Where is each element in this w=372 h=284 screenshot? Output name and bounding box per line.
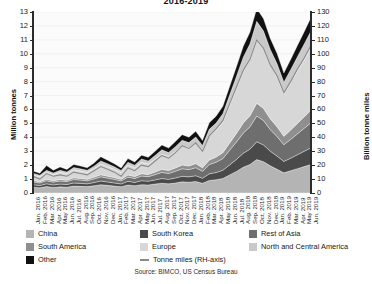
- legend-item-label: China: [38, 229, 57, 238]
- y-tick-label-left: 2: [6, 161, 28, 169]
- y-tick-label-left: 3: [6, 147, 28, 155]
- y-tick-mark-left: [30, 12, 33, 13]
- y-tick-label-right: 130: [317, 8, 343, 16]
- y-tick-mark-left: [30, 193, 33, 194]
- y-tick-mark-left: [30, 26, 33, 27]
- chart-root: 2016-2019 012345678910111213 01020304050…: [0, 0, 372, 284]
- y-tick-label-right: 90: [317, 64, 343, 72]
- legend-item[interactable]: Other: [26, 254, 56, 265]
- x-tick-label: Mar. 2016: [49, 196, 55, 224]
- y-tick-mark-left: [30, 165, 33, 166]
- x-tick-label: Mar. 2019: [293, 196, 299, 224]
- legend-item[interactable]: South Korea: [140, 228, 193, 239]
- legend-color-swatch: [249, 243, 257, 251]
- y-tick-label-left: 12: [6, 22, 28, 30]
- legend-item-label: South America: [38, 242, 86, 251]
- y-tick-label-right: 50: [317, 119, 343, 127]
- y-tick-mark-right: [312, 82, 315, 83]
- y-tick-mark-left: [30, 151, 33, 152]
- legend-line-swatch: [140, 259, 149, 261]
- x-tick-label: Dec. 2016: [110, 196, 116, 224]
- legend-item-label: North and Central America: [261, 242, 348, 251]
- legend-color-swatch: [26, 243, 34, 251]
- y-tick-mark-left: [30, 40, 33, 41]
- y-tick-mark-left: [30, 82, 33, 83]
- y-tick-label-right: 120: [317, 22, 343, 30]
- y-tick-mark-right: [312, 12, 315, 13]
- y-tick-mark-right: [312, 96, 315, 97]
- legend-color-swatch: [140, 243, 148, 251]
- y-tick-label-right: 60: [317, 105, 343, 113]
- y-axis-right: [310, 11, 312, 194]
- x-tick-label: Sep. 2017: [171, 196, 177, 224]
- legend-item-label: Europe: [152, 242, 176, 251]
- y-axis-left: [32, 11, 34, 194]
- y-tick-mark-left: [30, 109, 33, 110]
- y-tick-mark-right: [312, 165, 315, 166]
- legend-item-label: Other: [38, 255, 56, 264]
- y-tick-mark-right: [312, 54, 315, 55]
- x-tick-label: Nov. 2018: [266, 196, 272, 224]
- y-tick-mark-right: [312, 109, 315, 110]
- stacked-area-plot: [33, 12, 311, 193]
- y-tick-label-left: 8: [6, 78, 28, 86]
- legend-color-swatch: [249, 230, 257, 238]
- y-tick-label-right: 30: [317, 147, 343, 155]
- legend-item[interactable]: China: [26, 228, 57, 239]
- legend-color-swatch: [26, 230, 34, 238]
- y-tick-mark-right: [312, 193, 315, 194]
- y-tick-mark-left: [30, 179, 33, 180]
- legend-item-label: Tonne miles (RH-axis): [153, 255, 226, 264]
- y-tick-mark-right: [312, 68, 315, 69]
- y-tick-label-left: 11: [6, 36, 28, 44]
- y-tick-mark-right: [312, 179, 315, 180]
- y-tick-label-right: 0: [317, 189, 343, 197]
- x-tick-label: Jul. 2016: [76, 199, 82, 224]
- legend-item[interactable]: Europe: [140, 241, 176, 252]
- y-tick-label-right: 10: [317, 175, 343, 183]
- y-tick-mark-right: [312, 40, 315, 41]
- legend-item[interactable]: North and Central America: [249, 241, 348, 252]
- y-tick-label-right: 110: [317, 36, 343, 44]
- legend-item[interactable]: South America: [26, 241, 86, 252]
- y-axis-right-label: Billion tonne miles: [362, 92, 371, 160]
- x-tick-label: Jun. 2018: [232, 197, 238, 224]
- x-tick-label: Jun. 2019: [313, 197, 319, 224]
- y-tick-mark-right: [312, 151, 315, 152]
- plot-area: [33, 12, 311, 193]
- y-tick-label-right: 40: [317, 133, 343, 141]
- legend-color-swatch: [26, 256, 34, 264]
- legend-item-label: Rest of Asia: [261, 229, 300, 238]
- y-tick-mark-left: [30, 54, 33, 55]
- y-tick-mark-left: [30, 96, 33, 97]
- y-tick-mark-left: [30, 68, 33, 69]
- y-tick-label-left: 10: [6, 50, 28, 58]
- y-tick-mark-right: [312, 137, 315, 138]
- chart-legend: ChinaSouth KoreaRest of AsiaSouth Americ…: [0, 228, 372, 268]
- x-tick-label: Apr. 2017: [137, 198, 143, 225]
- y-tick-label-right: 70: [317, 92, 343, 100]
- y-axis-left-label: Million tonnes: [9, 89, 18, 140]
- y-tick-mark-left: [30, 137, 33, 138]
- y-tick-label-left: 1: [6, 175, 28, 183]
- y-tick-label-right: 80: [317, 78, 343, 86]
- chart-title: 2016-2019: [0, 0, 372, 5]
- legend-item-label: South Korea: [152, 229, 193, 238]
- y-tick-mark-left: [30, 123, 33, 124]
- y-tick-mark-right: [312, 26, 315, 27]
- legend-color-swatch: [140, 230, 148, 238]
- y-tick-label-left: 9: [6, 64, 28, 72]
- x-axis-labels: Jan. 2016Feb. 2016Mar. 2016Apr. 2016May …: [33, 196, 311, 226]
- source-note: Source: BIMCO, US Census Bureau: [0, 268, 372, 275]
- legend-item[interactable]: Rest of Asia: [249, 228, 300, 239]
- y-tick-mark-right: [312, 123, 315, 124]
- y-tick-label-right: 20: [317, 161, 343, 169]
- y-tick-label-left: 0: [6, 189, 28, 197]
- y-tick-label-left: 13: [6, 8, 28, 16]
- y-tick-label-right: 100: [317, 50, 343, 58]
- legend-item[interactable]: Tonne miles (RH-axis): [140, 254, 226, 265]
